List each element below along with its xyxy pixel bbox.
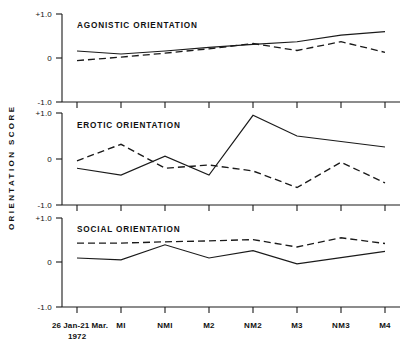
orientation-score-chart: ORIENTATION SCORE +1.0 0 -1.0 AGONISTIC <box>0 0 408 352</box>
panel-erotic-dashed-series <box>77 144 385 187</box>
panel-erotic-xticks <box>77 205 385 211</box>
ytick-label-bottom: -1.0 <box>37 303 52 312</box>
ytick-label-bottom: -1.0 <box>37 98 52 107</box>
chart-figure: ORIENTATION SCORE +1.0 0 -1.0 AGONISTIC <box>0 0 408 352</box>
panel-social-dashed-series <box>77 238 385 247</box>
xtick-label-6: NM3 <box>332 321 350 330</box>
ytick-label-top: +1.0 <box>35 10 52 19</box>
xtick-label-2: NMI <box>157 321 173 330</box>
xtick-label-0: 26 Jan-21 Mar. <box>52 321 108 330</box>
panel-social: +1.0 0 -1.0 SOCIAL ORIENTATION <box>35 214 400 313</box>
xtick-label-3: M2 <box>203 321 215 330</box>
ytick-label-mid: 0 <box>47 258 52 267</box>
panel-erotic: +1.0 0 -1.0 EROTIC ORIENTATION <box>35 109 400 211</box>
panel-social-solid-series <box>77 245 385 264</box>
xtick-label-7: M4 <box>379 321 391 330</box>
ytick-label-top: +1.0 <box>35 109 52 118</box>
panel-agonistic-solid-series <box>77 32 385 54</box>
xtick-label-5: M3 <box>291 321 303 330</box>
xtick-label-1: MI <box>116 321 126 330</box>
ytick-label-bottom: -1.0 <box>37 201 52 210</box>
panel-erotic-title: EROTIC ORIENTATION <box>77 121 181 130</box>
xtick-label-4: NM2 <box>244 321 262 330</box>
panel-agonistic-xticks <box>77 102 385 108</box>
panel-social-title: SOCIAL ORIENTATION <box>77 225 181 234</box>
y-axis-title: ORIENTATION SCORE <box>7 105 16 230</box>
panel-social-xticks <box>77 307 385 313</box>
x-axis-tick-labels: 26 Jan-21 Mar. 1972 MI NMI M2 NM2 M3 NM3… <box>52 321 391 341</box>
ytick-label-mid: 0 <box>47 155 52 164</box>
panel-agonistic-dashed-series <box>77 42 385 61</box>
panel-agonistic: +1.0 0 -1.0 AGONISTIC ORIENTATION <box>35 10 400 108</box>
xtick-sublabel-year: 1972 <box>68 332 87 341</box>
panel-agonistic-title: AGONISTIC ORIENTATION <box>77 21 198 30</box>
ytick-label-top: +1.0 <box>35 214 52 223</box>
ytick-label-mid: 0 <box>47 54 52 63</box>
